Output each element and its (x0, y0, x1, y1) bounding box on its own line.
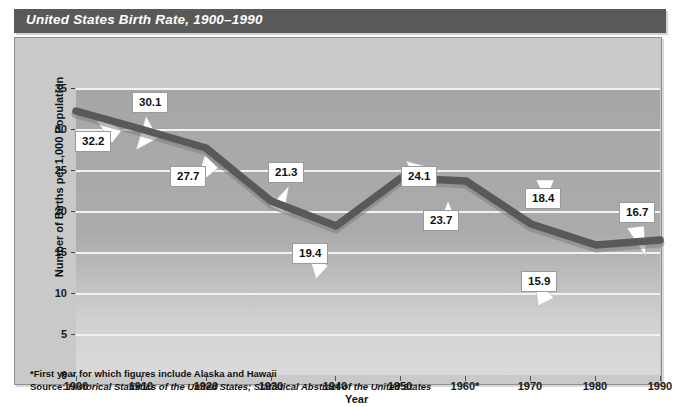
y-tick-mark-15 (71, 252, 75, 253)
y-tick-label-10: 10 (37, 287, 67, 299)
data-label-1900: 32.2 (75, 131, 111, 152)
chart-frame: Number of Births per 1,000 Population Ye… (14, 37, 662, 385)
data-label-1970: 18.4 (525, 188, 561, 209)
y-tick-mark-25 (71, 170, 75, 171)
footnote-source: Source: Historical Statistics of the Uni… (30, 381, 431, 392)
data-label-1920: 27.7 (170, 166, 206, 187)
source-prefix: Source: (30, 381, 68, 392)
chart-title-bar: United States Birth Rate, 1900–1990 (14, 9, 666, 33)
data-label-1980: 15.9 (521, 271, 557, 292)
footnote-asterisk: *First year for which figures include Al… (30, 368, 277, 379)
y-tick-mark-35 (71, 88, 75, 89)
data-label-1960: 23.7 (423, 210, 459, 231)
y-tick-label-5: 5 (37, 328, 67, 340)
data-label-1910: 30.1 (132, 92, 168, 113)
plot-area (76, 88, 660, 375)
y-tick-mark-10 (71, 293, 75, 294)
data-label-1990: 16.7 (619, 202, 655, 223)
chart-figure: United States Birth Rate, 1900–1990 Numb… (0, 0, 677, 407)
x-tick-label-1960: 1960* (435, 380, 495, 392)
y-tick-label-35: 35 (37, 82, 67, 94)
y-tick-mark-5 (71, 334, 75, 335)
y-tick-label-20: 20 (37, 205, 67, 217)
data-label-1930: 21.3 (268, 162, 304, 183)
page-title: United States Birth Rate, 1900–1990 (26, 12, 263, 27)
source-body: Historical Statistics of the United Stat… (68, 381, 431, 392)
series-plot-svg (76, 88, 660, 375)
series-line (76, 111, 660, 245)
x-tick-label-1990: 1990 (630, 380, 677, 392)
y-tick-mark-30 (71, 129, 75, 130)
y-tick-label-25: 25 (37, 164, 67, 176)
x-tick-label-1980: 1980 (565, 380, 625, 392)
data-label-1940: 19.4 (292, 243, 328, 264)
data-label-1950: 24.1 (401, 166, 437, 187)
y-tick-label-15: 15 (37, 246, 67, 258)
y-tick-label-30: 30 (37, 123, 67, 135)
x-tick-label-1970: 1970 (500, 380, 560, 392)
x-axis-title: Year (345, 393, 368, 405)
y-tick-mark-20 (71, 211, 75, 212)
